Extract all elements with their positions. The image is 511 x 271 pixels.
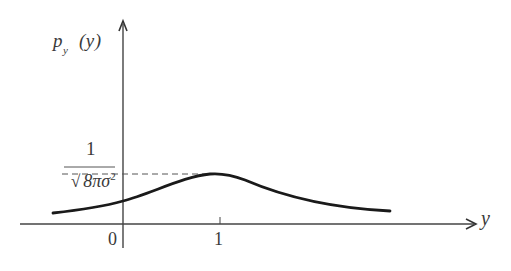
x-axis-label: y <box>481 207 490 230</box>
y-axis-label-main: p <box>53 30 63 51</box>
y-axis-label-subscript: y <box>63 44 68 56</box>
peak-label-numerator: 1 <box>86 138 96 160</box>
radical-icon: √ <box>71 172 80 191</box>
x-tick-label-1: 1 <box>214 229 223 250</box>
y-axis-label: py (y) <box>53 30 101 54</box>
peak-label-denominator: √8πσ2 <box>71 170 116 192</box>
denominator-exponent: 2 <box>110 170 116 182</box>
y-axis-label-argument: (y) <box>79 30 102 51</box>
x-tick-label-0: 0 <box>108 229 117 250</box>
denominator-body: 8πσ <box>83 171 110 191</box>
